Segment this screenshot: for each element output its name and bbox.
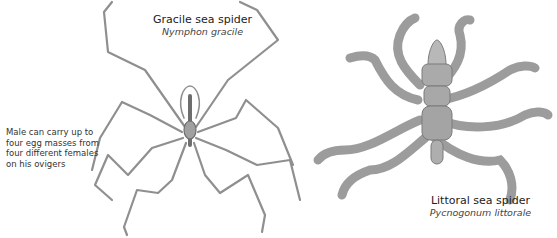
littoral-sea-spider-illustration	[318, 18, 548, 200]
littoral-common-name: Littoral sea spider	[408, 195, 553, 208]
littoral-sea-spider-caption: Littoral sea spider Pycnogonum littorale	[408, 195, 553, 219]
gracile-scientific-name: Nymphon gracile	[130, 27, 275, 38]
gracile-annotation: Male can carry up to four egg masses fro…	[6, 127, 106, 169]
littoral-scientific-name: Pycnogonum littorale	[408, 208, 553, 219]
gracile-sea-spider-caption: Gracile sea spider Nymphon gracile	[130, 14, 275, 38]
gracile-common-name: Gracile sea spider	[130, 14, 275, 27]
